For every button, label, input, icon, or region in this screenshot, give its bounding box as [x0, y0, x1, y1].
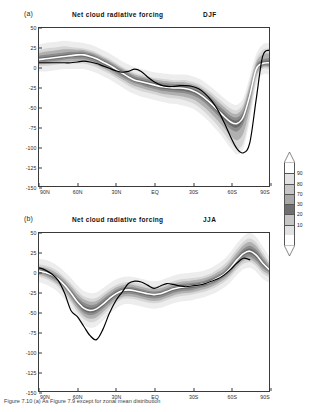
xtick-label-a: EQ	[151, 186, 159, 195]
colorbar-tick	[284, 204, 295, 205]
colorbar-tick	[284, 173, 295, 174]
ytick-label-b: 25	[31, 250, 39, 256]
ytick-label-b: -100	[26, 350, 39, 356]
colorbar-bottom-arrow	[284, 245, 295, 256]
ytick-label-b: -125	[26, 370, 39, 376]
ytick-label-a: -50	[29, 105, 39, 111]
ytick-label-b: 50	[31, 230, 39, 236]
xtick-mark-b	[193, 388, 194, 391]
colorbar-segment	[284, 214, 295, 224]
ytick-mark-a	[39, 68, 42, 69]
ytick-mark-b	[39, 253, 42, 254]
ytick-label-a: -100	[26, 145, 39, 151]
xtick-mark-a	[155, 183, 156, 186]
colorbar-segment	[284, 235, 295, 245]
ytick-mark-a	[39, 148, 42, 149]
panel-season-a: DJF	[203, 11, 217, 18]
ytick-mark-a	[39, 108, 42, 109]
xtick-label-a: 90S	[260, 186, 270, 195]
plot-curves-jja	[39, 233, 269, 391]
xtick-mark-b	[39, 388, 40, 391]
ytick-mark-b	[39, 293, 42, 294]
ytick-mark-b	[39, 373, 42, 374]
colorbar-segment	[284, 163, 295, 173]
xtick-label-a: 60S	[228, 186, 238, 195]
colorbar-segment	[284, 194, 295, 204]
xtick-mark-b	[271, 388, 272, 391]
ytick-mark-a	[39, 48, 42, 49]
ytick-mark-a	[39, 88, 42, 89]
xtick-label-a: 90N	[40, 186, 50, 195]
colorbar-label: 70	[295, 191, 303, 197]
colorbar-tick	[284, 225, 295, 226]
ytick-mark-b	[39, 333, 42, 334]
panel-label-a: (a)	[24, 10, 33, 17]
ytick-mark-b	[39, 313, 42, 314]
ytick-mark-b	[39, 353, 42, 354]
colorbar-segment	[284, 204, 295, 214]
xtick-mark-a	[232, 183, 233, 186]
ytick-label-a: 50	[31, 25, 39, 31]
panel-jja: (b) Net cloud radiative forcing JJA 5025…	[0, 205, 310, 411]
xtick-mark-a	[193, 183, 194, 186]
xtick-label-a: 30N	[111, 186, 121, 195]
ytick-mark-a	[39, 28, 42, 29]
ytick-label-a: -125	[26, 165, 39, 171]
ytick-mark-a	[39, 128, 42, 129]
colorbar-segment	[284, 225, 295, 235]
xtick-mark-a	[77, 183, 78, 186]
xtick-label-a: 30S	[189, 186, 199, 195]
xtick-mark-b	[232, 388, 233, 391]
colorbar-tick	[284, 184, 295, 185]
percentile-colorbar: 908070302010	[284, 152, 295, 256]
ytick-mark-b	[39, 233, 42, 234]
ytick-label-a: -75	[29, 125, 39, 131]
colorbar-label: 80	[295, 181, 303, 187]
panel-label-b: (b)	[24, 215, 33, 222]
panel-title-b: Net cloud radiative forcing	[72, 216, 163, 223]
plot-area-djf: 50250-25-50-75-100-125-15090N60N30NEQ30S…	[38, 27, 270, 187]
ytick-label-a: 25	[31, 45, 39, 51]
panel-season-b: JJA	[203, 216, 216, 223]
xtick-mark-b	[155, 388, 156, 391]
colorbar-label: 90	[295, 170, 303, 176]
panel-title-a: Net cloud radiative forcing	[72, 11, 163, 18]
colorbar-segment	[284, 184, 295, 194]
ytick-label-b: -25	[29, 290, 39, 296]
figure-caption: Figure 7.10 (a) As Figure 7.9 except for…	[4, 398, 304, 405]
ytick-label-b: -50	[29, 310, 39, 316]
xtick-mark-b	[116, 388, 117, 391]
figure-root: (a) Net cloud radiative forcing DJF 5025…	[0, 0, 310, 412]
xtick-mark-b	[77, 388, 78, 391]
ytick-mark-b	[39, 273, 42, 274]
ytick-label-b: -150	[26, 390, 39, 396]
plot-area-jja: 50250-25-50-75-100-125-15090N60N30NEQ30S…	[38, 232, 270, 392]
ytick-label-a: -150	[26, 185, 39, 191]
colorbar-label: 30	[295, 201, 303, 207]
colorbar-top-arrow	[284, 152, 295, 163]
xtick-mark-a	[271, 183, 272, 186]
colorbar-label: 10	[295, 222, 303, 228]
xtick-mark-a	[116, 183, 117, 186]
colorbar-label: 20	[295, 211, 303, 217]
panel-djf: (a) Net cloud radiative forcing DJF 5025…	[0, 0, 310, 206]
xtick-mark-a	[39, 183, 40, 186]
ytick-label-a: -25	[29, 85, 39, 91]
colorbar-tick	[284, 194, 295, 195]
ytick-mark-a	[39, 168, 42, 169]
plot-curves-djf	[39, 28, 269, 186]
xtick-label-a: 60N	[73, 186, 83, 195]
ytick-label-b: -75	[29, 330, 39, 336]
colorbar-tick	[284, 214, 295, 215]
colorbar-segment	[284, 173, 295, 183]
